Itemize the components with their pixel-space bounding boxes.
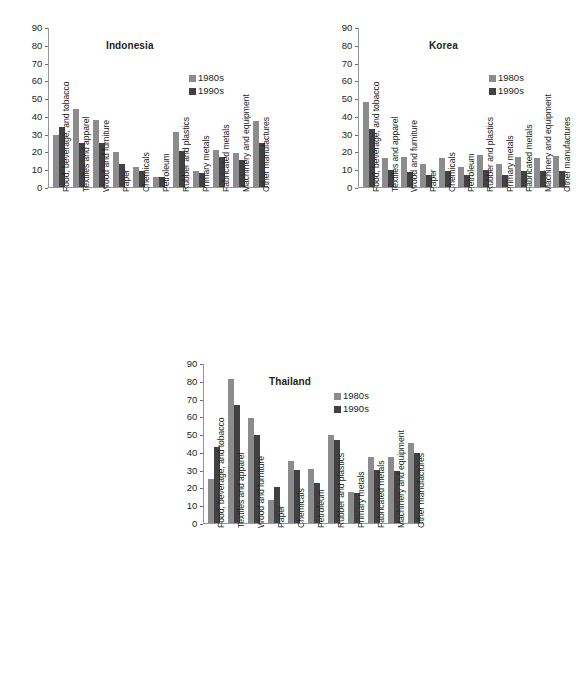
y-axis-tick-mark bbox=[355, 152, 358, 153]
y-axis-tick-label: 90 bbox=[187, 359, 197, 369]
y-axis-tick-label: 30 bbox=[32, 130, 42, 140]
x-axis-category-label: Fabricated metals bbox=[377, 461, 386, 528]
x-axis-category-label: Other manufactures bbox=[417, 453, 426, 528]
y-axis-tick-mark bbox=[200, 400, 203, 401]
bar-group bbox=[109, 28, 129, 187]
x-axis-category-label: Primary metals bbox=[357, 471, 366, 528]
chart-panel-indonesia: Indonesia 1980s 1990s 010203040506070809… bbox=[24, 28, 269, 188]
x-axis-category-label: Machinery and equipment bbox=[397, 430, 406, 528]
x-axis-category-label: Rubber and plastics bbox=[337, 453, 346, 528]
y-axis-tick-mark bbox=[45, 135, 48, 136]
y-axis-tick-label: 0 bbox=[192, 519, 197, 529]
y-axis-tick-mark bbox=[200, 417, 203, 418]
y-axis-tick-mark bbox=[200, 471, 203, 472]
y-axis-tick-mark bbox=[45, 188, 48, 189]
y-axis-tick-label: 40 bbox=[187, 448, 197, 458]
x-axis-category-label: Petroleum bbox=[162, 153, 171, 192]
y-axis-tick-label: 90 bbox=[342, 23, 352, 33]
y-axis-tick-label: 50 bbox=[342, 94, 352, 104]
y-axis-tick-label: 30 bbox=[342, 130, 352, 140]
y-axis-tick-label: 80 bbox=[32, 41, 42, 51]
x-axis-category-label: Textiles and apparel bbox=[82, 117, 91, 192]
y-axis-tick-label: 80 bbox=[187, 377, 197, 387]
y-axis-tick-mark bbox=[45, 46, 48, 47]
x-axis-category-label: Chemicals bbox=[448, 152, 457, 192]
y-axis-tick-mark bbox=[200, 453, 203, 454]
y-axis-tick-label: 10 bbox=[32, 165, 42, 175]
y-axis-tick-label: 60 bbox=[342, 77, 352, 87]
x-axis-category-label: Food, beverage, and tobacco bbox=[62, 82, 71, 192]
y-axis-tick-label: 10 bbox=[342, 165, 352, 175]
y-axis-tick-mark bbox=[200, 382, 203, 383]
x-axis-category-label: Paper bbox=[122, 169, 131, 192]
chart-panel-korea: Korea 1980s 1990s 0102030405060708090 Fo… bbox=[334, 28, 569, 188]
x-axis-category-label: Food, beverage, and tobacco bbox=[372, 82, 381, 192]
y-axis-tick-mark bbox=[200, 506, 203, 507]
y-axis-tick-label: 10 bbox=[187, 501, 197, 511]
y-axis-korea: 0102030405060708090 bbox=[334, 28, 354, 188]
y-axis-tick-mark bbox=[355, 64, 358, 65]
y-axis-tick-label: 40 bbox=[342, 112, 352, 122]
y-axis-tick-mark bbox=[45, 28, 48, 29]
x-axis-category-label: Primary metals bbox=[506, 135, 515, 192]
y-axis-thailand: 0102030405060708090 bbox=[179, 364, 199, 524]
y-axis-tick-label: 50 bbox=[187, 430, 197, 440]
x-axis-labels-korea: Food, beverage, and tobaccoTextiles and … bbox=[359, 192, 569, 302]
x-axis-category-label: Rubber and plastics bbox=[182, 117, 191, 192]
y-axis-tick-mark bbox=[200, 524, 203, 525]
x-axis-category-label: Machinery and equipment bbox=[242, 94, 251, 192]
y-axis-tick-mark bbox=[200, 488, 203, 489]
y-axis-tick-label: 70 bbox=[342, 59, 352, 69]
y-axis-tick-label: 60 bbox=[187, 413, 197, 423]
x-axis-category-label: Primary metals bbox=[202, 135, 211, 192]
x-axis-category-label: Chemicals bbox=[297, 488, 306, 528]
y-axis-tick-label: 20 bbox=[342, 148, 352, 158]
y-axis-tick-label: 60 bbox=[32, 77, 42, 87]
x-axis-labels-indonesia: Food, beverage, and tobaccoTextiles and … bbox=[49, 192, 269, 302]
y-axis-tick-mark bbox=[45, 152, 48, 153]
x-axis-category-label: Chemicals bbox=[142, 152, 151, 192]
y-axis-tick-label: 90 bbox=[32, 23, 42, 33]
y-axis-tick-mark bbox=[355, 99, 358, 100]
y-axis-tick-mark bbox=[200, 364, 203, 365]
y-axis-tick-mark bbox=[45, 64, 48, 65]
x-axis-category-label: Machinery and equipment bbox=[544, 94, 553, 192]
x-axis-category-label: Wood and furniture bbox=[102, 120, 111, 192]
y-axis-tick-mark bbox=[355, 170, 358, 171]
y-axis-tick-mark bbox=[355, 46, 358, 47]
y-axis-tick-label: 0 bbox=[37, 183, 42, 193]
x-axis-category-label: Rubber and plastics bbox=[486, 117, 495, 192]
x-axis-category-label: Paper bbox=[277, 505, 286, 528]
y-axis-tick-label: 50 bbox=[32, 94, 42, 104]
y-axis-tick-mark bbox=[355, 117, 358, 118]
x-axis-category-label: Fabricated metals bbox=[525, 125, 534, 192]
bar-group bbox=[264, 364, 284, 523]
chart-panel-thailand: Thailand 1980s 1990s 0102030405060708090… bbox=[179, 364, 424, 524]
x-axis-category-label: Paper bbox=[429, 169, 438, 192]
x-axis-labels-thailand: Food, beverage, and tobaccoTextiles and … bbox=[204, 528, 424, 643]
y-axis-tick-label: 80 bbox=[342, 41, 352, 51]
x-axis-category-label: Textiles and apparel bbox=[391, 117, 400, 192]
x-axis-category-label: Petroleum bbox=[467, 153, 476, 192]
y-axis-tick-mark bbox=[355, 188, 358, 189]
y-axis-indonesia: 0102030405060708090 bbox=[24, 28, 44, 188]
x-axis-category-label: Textiles and apparel bbox=[237, 453, 246, 528]
bar-group bbox=[416, 28, 435, 187]
x-axis-category-label: Petroleum bbox=[317, 489, 326, 528]
y-axis-tick-label: 40 bbox=[32, 112, 42, 122]
y-axis-tick-mark bbox=[355, 81, 358, 82]
x-axis-category-label: Other manufactures bbox=[262, 117, 271, 192]
x-axis-category-label: Wood and furniture bbox=[410, 120, 419, 192]
y-axis-tick-mark bbox=[45, 170, 48, 171]
y-axis-tick-label: 70 bbox=[187, 395, 197, 405]
x-axis-category-label: Food, beverage, and tobacco bbox=[217, 418, 226, 528]
y-axis-tick-mark bbox=[45, 117, 48, 118]
x-axis-category-label: Wood and furniture bbox=[257, 456, 266, 528]
y-axis-tick-label: 0 bbox=[347, 183, 352, 193]
x-axis-category-label: Other manufactures bbox=[563, 117, 572, 192]
y-axis-tick-mark bbox=[200, 435, 203, 436]
y-axis-tick-label: 70 bbox=[32, 59, 42, 69]
y-axis-tick-label: 20 bbox=[187, 484, 197, 494]
x-axis-category-label: Fabricated metals bbox=[222, 125, 231, 192]
y-axis-tick-mark bbox=[45, 81, 48, 82]
